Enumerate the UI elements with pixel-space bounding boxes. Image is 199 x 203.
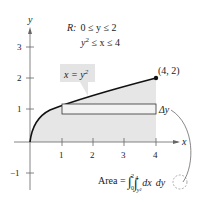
- region-description-line2: y2 ≤ x ≤ 4: [80, 36, 120, 48]
- y-tick-label: 3: [17, 42, 22, 52]
- x-tick-label: 4: [153, 150, 158, 160]
- dy-highlight-circle: [173, 175, 187, 189]
- y-axis-arrow-icon: [28, 27, 32, 34]
- y-axis-label: y: [27, 14, 33, 25]
- horizontal-strip-rectangle: [62, 104, 156, 114]
- double-integral-diagram: y x 1 2 3 4 3 2 1 −1 x = y2 R:0 ≤ y ≤ 2 …: [0, 0, 199, 203]
- x-tick-label: 2: [90, 150, 95, 160]
- x-tick-label: 3: [121, 150, 126, 160]
- x-axis-arrow-icon: [173, 140, 180, 144]
- y-tick-label: −1: [10, 168, 20, 178]
- connector-arc: [171, 110, 191, 182]
- curve-label-pointer: [80, 82, 88, 96]
- x-tick-label: 1: [59, 150, 64, 160]
- y-tick-label: 2: [17, 73, 22, 83]
- endpoint-dot: [154, 76, 158, 80]
- region-description-line1: R:0 ≤ y ≤ 2: [66, 22, 116, 33]
- area-formula: Area = ∫02∫y²4dxdy: [98, 173, 166, 193]
- y-tick-label: 1: [17, 104, 22, 114]
- delta-y-label: Δy: [158, 104, 170, 115]
- point-label: (4, 2): [158, 65, 180, 77]
- x-axis-label: x: [181, 136, 187, 147]
